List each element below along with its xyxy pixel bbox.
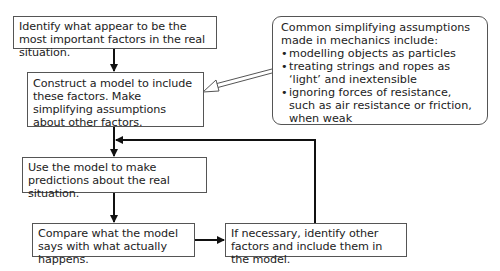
box-construct-model: Construct a model to include these facto… xyxy=(27,72,204,127)
callout-pointer-head xyxy=(203,80,219,92)
callout-item: treating strings and ropes as ‘light’ an… xyxy=(281,60,479,86)
box-refine: If necessary, identify other factors and… xyxy=(225,223,407,257)
callout-assumptions: Common simplifying assumptions made in m… xyxy=(272,16,488,125)
callout-list: modelling objects as particles treating … xyxy=(281,47,479,125)
box-compare: Compare what the model says with what ac… xyxy=(32,223,195,257)
box-identify-factors: Identify what appear to be the most impo… xyxy=(13,16,217,49)
callout-item: modelling objects as particles xyxy=(281,47,479,60)
box-use-model: Use the model to make predictions about … xyxy=(22,157,207,193)
callout-intro: Common simplifying assumptions made in m… xyxy=(281,21,479,47)
callout-item: ignoring forces of resistance, such as a… xyxy=(281,86,479,125)
callout-pointer xyxy=(215,69,272,88)
box-construct-text: Construct a model to include these facto… xyxy=(33,77,192,129)
